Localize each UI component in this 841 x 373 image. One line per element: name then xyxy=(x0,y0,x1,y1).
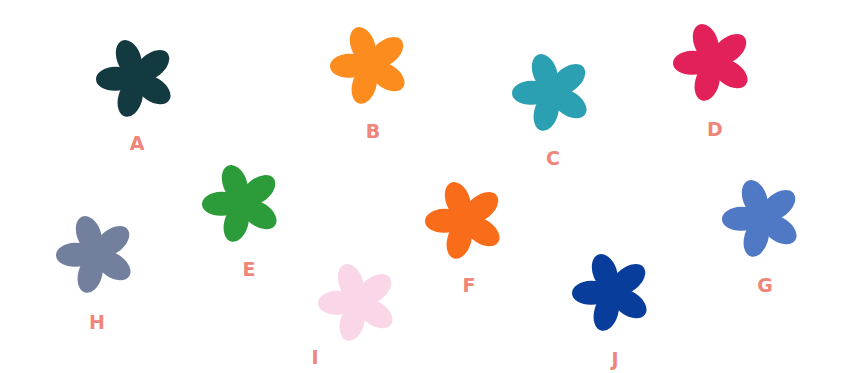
flower-f-icon xyxy=(425,180,505,260)
flower-a-icon xyxy=(96,38,176,118)
flower-label-b: B xyxy=(358,122,388,141)
flower-i-icon xyxy=(318,262,398,342)
flower-label-e: E xyxy=(234,260,264,279)
flower-label-i: I xyxy=(300,348,330,367)
flower-c-icon xyxy=(512,52,592,132)
flower-label-f: F xyxy=(454,276,484,295)
flower-label-a: A xyxy=(122,134,152,153)
flower-label-j: J xyxy=(600,350,630,369)
flower-e-icon xyxy=(202,163,282,243)
flower-b-icon xyxy=(330,25,410,105)
flower-d-icon xyxy=(673,22,753,102)
flower-g-icon xyxy=(722,178,802,258)
flower-h-icon xyxy=(56,214,136,294)
flower-label-d: D xyxy=(700,120,730,139)
flower-j-icon xyxy=(572,252,652,332)
flower-label-g: G xyxy=(750,276,780,295)
flower-label-h: H xyxy=(82,313,112,332)
flower-label-c: C xyxy=(538,149,568,168)
